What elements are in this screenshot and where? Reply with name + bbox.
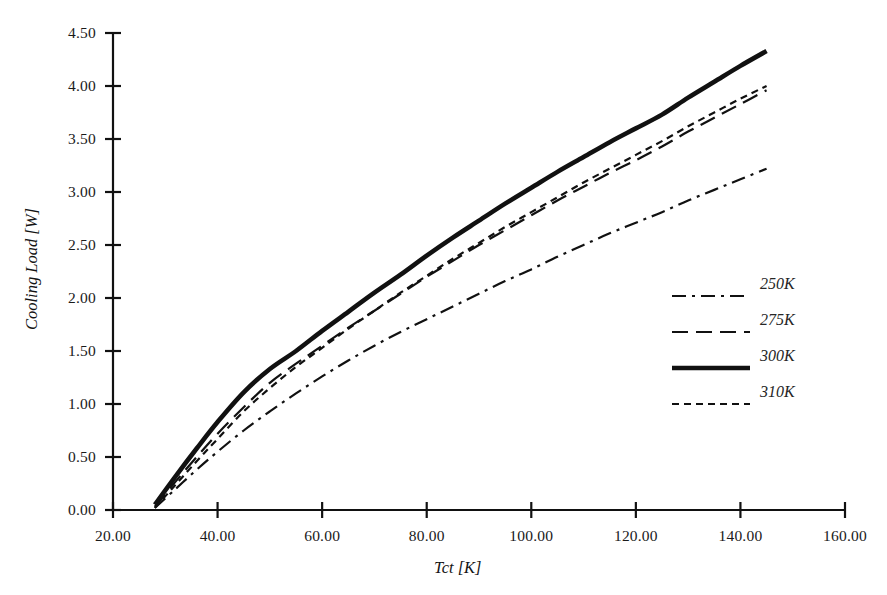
legend-line-swatch: [672, 393, 750, 397]
legend-label: 300K: [760, 347, 795, 365]
legend-item-275K[interactable]: 275K: [672, 304, 862, 340]
x-tick-label: 80.00: [409, 527, 445, 545]
x-tick-label: 120.00: [614, 527, 658, 545]
x-tick-label: 40.00: [200, 527, 236, 545]
legend-label: 310K: [760, 383, 795, 401]
y-tick-label: 3.50: [18, 130, 96, 148]
x-tick-label: 100.00: [509, 527, 553, 545]
x-tick-label: 140.00: [719, 527, 763, 545]
y-tick-label: 1.00: [18, 395, 96, 413]
legend-line-swatch: [672, 321, 750, 325]
y-tick-label: 3.00: [18, 183, 96, 201]
y-tick-label: 0.00: [18, 501, 96, 519]
x-tick-label: 60.00: [304, 527, 340, 545]
chart-figure: 0.000.501.001.502.002.503.003.504.004.50…: [0, 0, 887, 595]
legend-item-310K[interactable]: 310K: [672, 376, 862, 412]
x-axis-title: Tct [K]: [434, 558, 482, 578]
y-tick-label: 4.00: [18, 77, 96, 95]
legend-label: 250K: [760, 275, 795, 293]
y-tick-label: 1.50: [18, 342, 96, 360]
legend-item-300K[interactable]: 300K: [672, 340, 862, 376]
legend-label: 275K: [760, 311, 795, 329]
legend-line-swatch: [672, 285, 750, 289]
y-tick-label: 0.50: [18, 448, 96, 466]
x-tick-label: 20.00: [95, 527, 131, 545]
chart-legend: 250K275K300K310K: [672, 268, 862, 412]
y-axis-title: Cooling Load [W]: [22, 208, 42, 330]
legend-line-swatch: [672, 357, 750, 361]
legend-item-250K[interactable]: 250K: [672, 268, 862, 304]
x-tick-label: 160.00: [823, 527, 867, 545]
y-tick-label: 4.50: [18, 24, 96, 42]
